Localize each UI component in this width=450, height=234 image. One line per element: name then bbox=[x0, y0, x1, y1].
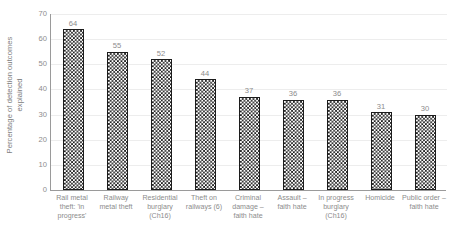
bar[interactable] bbox=[371, 112, 392, 190]
y-axis-tick-label: 50 bbox=[39, 60, 47, 68]
bar[interactable] bbox=[415, 115, 436, 190]
bar-value-label: 44 bbox=[201, 69, 209, 78]
bar-value-label: 30 bbox=[421, 104, 429, 113]
x-axis-category-label: Residential burglary (Ch16) bbox=[138, 193, 182, 222]
x-axis-category-label: Homicide bbox=[358, 193, 402, 203]
bar[interactable] bbox=[151, 59, 172, 190]
x-axis-category-labels: Rail metal theft: 'in progress'Railway m… bbox=[50, 193, 446, 234]
bar-slot: 36 bbox=[271, 14, 315, 190]
x-axis-category-label: Theft on railways (6) bbox=[182, 193, 226, 212]
bar-chart: Percentage of detection outcomes explain… bbox=[0, 0, 450, 234]
bar-value-label: 64 bbox=[69, 19, 77, 28]
bar-slot: 31 bbox=[359, 14, 403, 190]
bar[interactable] bbox=[283, 100, 304, 191]
x-axis-category-label: Rail metal theft: 'in progress' bbox=[50, 193, 94, 222]
bar-slot: 64 bbox=[51, 14, 95, 190]
plot-area: 645552443736363130 bbox=[50, 14, 447, 190]
bar-value-label: 36 bbox=[333, 89, 341, 98]
bar-value-label: 52 bbox=[157, 49, 165, 58]
bar[interactable] bbox=[63, 29, 84, 190]
bar-slot: 52 bbox=[139, 14, 183, 190]
bar-value-label: 37 bbox=[245, 86, 253, 95]
bar-slot: 30 bbox=[403, 14, 447, 190]
bar-slot: 44 bbox=[183, 14, 227, 190]
y-axis-title-line1: Percentage of detection outcomes bbox=[5, 37, 14, 154]
x-axis-category-label: Public order – faith hate bbox=[402, 193, 446, 212]
y-axis-tick-label: 40 bbox=[39, 85, 47, 93]
y-axis-title-line2: explained bbox=[15, 37, 25, 154]
x-axis-line bbox=[50, 190, 446, 191]
bar[interactable] bbox=[239, 97, 260, 190]
y-axis-tick-label: 0 bbox=[43, 186, 47, 194]
bar-value-label: 36 bbox=[289, 89, 297, 98]
bar-value-label: 55 bbox=[113, 41, 121, 50]
x-axis-category-label: Railway metal theft bbox=[94, 193, 138, 212]
x-axis-category-label: Criminal damage – faith hate bbox=[226, 193, 270, 222]
y-axis-tick-label: 60 bbox=[39, 35, 47, 43]
y-axis-tick-label: 30 bbox=[39, 111, 47, 119]
y-axis-tick-label: 20 bbox=[39, 136, 47, 144]
bar-slot: 37 bbox=[227, 14, 271, 190]
bar-slot: 36 bbox=[315, 14, 359, 190]
bar-slot: 55 bbox=[95, 14, 139, 190]
x-axis-category-label: In progress burglary (Ch16) bbox=[314, 193, 358, 222]
x-axis-category-label: Assault – faith hate bbox=[270, 193, 314, 212]
bar-series: 645552443736363130 bbox=[51, 14, 447, 190]
bar-value-label: 31 bbox=[377, 102, 385, 111]
bar[interactable] bbox=[327, 100, 348, 191]
bar[interactable] bbox=[195, 79, 216, 190]
bar[interactable] bbox=[107, 52, 128, 190]
y-axis-tick-label: 70 bbox=[39, 10, 47, 18]
y-axis-tick-labels: 010203040506070 bbox=[26, 0, 50, 196]
y-axis-tick-label: 10 bbox=[39, 161, 47, 169]
